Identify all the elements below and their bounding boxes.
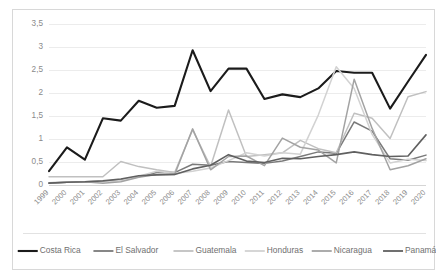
y-axis-tick-label: 0,5 — [32, 157, 44, 166]
x-axis-tick-label: 2008 — [194, 188, 212, 206]
legend-label-nicaragua[interactable]: Nicaragua — [334, 245, 373, 255]
x-axis-tick-label: 2013 — [283, 188, 301, 206]
legend-label-honduras[interactable]: Honduras — [267, 245, 303, 255]
y-axis-tick-label: 1,5 — [32, 111, 44, 120]
x-axis-tick-label: 2018 — [373, 188, 391, 206]
x-axis-tick-label: 2020 — [409, 188, 427, 206]
series-line-costa-rica — [49, 50, 426, 171]
y-axis-tick-label: 2,5 — [32, 65, 44, 74]
y-axis-tick-label: 0 — [38, 180, 43, 189]
x-axis-tick-label: 2004 — [122, 188, 140, 206]
x-axis-tick-label: 2010 — [230, 188, 248, 206]
x-axis-tick-label: 2016 — [337, 188, 355, 206]
line-chart: 00,511,522,533,5 19992000200120022003200… — [13, 10, 436, 271]
legend-label-el-salvador[interactable]: El Salvador — [115, 245, 158, 255]
x-axis-tick-label: 2014 — [301, 188, 319, 206]
x-axis-tick-label: 2006 — [158, 188, 176, 206]
gridlines-group — [49, 24, 426, 185]
x-axis-tick-label: 2007 — [176, 188, 194, 206]
x-axis-tick-label: 2011 — [248, 188, 266, 206]
legend-label-guatemala[interactable]: Guatemala — [195, 245, 236, 255]
legend-label-costa-rica[interactable]: Costa Rica — [40, 245, 81, 255]
x-axis-tick-label: 2017 — [355, 188, 373, 206]
x-axis-tick-label: 2003 — [104, 188, 122, 206]
x-axis-tick-label: 2005 — [140, 188, 158, 206]
x-axis-tick-label: 2009 — [212, 188, 230, 206]
series-line-honduras — [49, 67, 426, 183]
x-axis-tick-label: 2012 — [265, 188, 283, 206]
series-line-guatemala — [49, 92, 426, 177]
x-axis-tick-labels: 1999200020012002200320042005200620072008… — [32, 188, 427, 206]
x-axis-tick-label: 2019 — [391, 188, 409, 206]
y-axis-tick-label: 1 — [38, 134, 43, 143]
y-axis-tick-label: 3 — [38, 42, 43, 51]
y-axis-tick-labels: 00,511,522,533,5 — [32, 19, 44, 189]
y-axis-tick-label: 3,5 — [32, 19, 44, 28]
x-axis-tick-label: 2002 — [86, 188, 104, 206]
x-axis-tick-label: 1999 — [32, 188, 50, 206]
x-axis-tick-label: 2015 — [319, 188, 337, 206]
x-axis-tick-label: 2001 — [68, 188, 86, 206]
chart-legend: Costa RicaEl SalvadorGuatemalaHondurasNi… — [18, 233, 436, 255]
series-line-panam — [49, 135, 426, 183]
x-axis-tick-label: 2000 — [50, 188, 68, 206]
chart-card: 00,511,522,533,5 19992000200120022003200… — [12, 9, 435, 270]
legend-label-panam[interactable]: Panamá — [405, 245, 436, 255]
y-axis-tick-label: 2 — [38, 88, 43, 97]
